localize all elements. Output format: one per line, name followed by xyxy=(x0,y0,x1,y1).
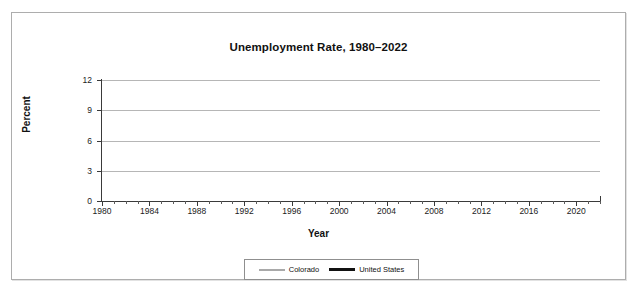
x-tick-label: 2020 xyxy=(559,206,593,216)
x-tick-minor xyxy=(209,201,210,204)
x-tick-minor xyxy=(410,201,411,204)
y-tick xyxy=(97,80,102,81)
x-tick-minor xyxy=(422,201,423,204)
x-tick-minor xyxy=(304,201,305,204)
x-tick-label: 1996 xyxy=(275,206,309,216)
y-tick-label: 3 xyxy=(66,166,92,176)
gridline xyxy=(102,80,600,81)
x-tick-minor xyxy=(541,201,542,204)
x-tick-minor xyxy=(232,201,233,204)
x-tick-label: 2008 xyxy=(417,206,451,216)
gridline xyxy=(102,171,600,172)
legend-label-colorado: Colorado xyxy=(289,265,319,274)
x-tick-label: 1980 xyxy=(85,206,119,216)
x-tick-minor xyxy=(600,201,601,204)
legend-swatch-colorado xyxy=(259,269,285,271)
x-tick-minor xyxy=(505,201,506,204)
x-tick-minor xyxy=(398,201,399,204)
x-tick-label: 1992 xyxy=(227,206,261,216)
y-tick xyxy=(97,141,102,142)
x-tick-minor xyxy=(517,201,518,204)
x-tick-label: 2012 xyxy=(464,206,498,216)
chart-frame: Unemployment Rate, 1980–2022 Percent 036… xyxy=(11,12,626,280)
x-tick-minor xyxy=(315,201,316,204)
x-tick-minor xyxy=(327,201,328,204)
x-tick-label: 2000 xyxy=(322,206,356,216)
y-tick xyxy=(97,110,102,111)
x-tick-minor xyxy=(221,201,222,204)
y-tick-label: 12 xyxy=(66,75,92,85)
x-tick-minor xyxy=(375,201,376,204)
y-tick-label: 0 xyxy=(66,196,92,206)
x-tick-minor xyxy=(173,201,174,204)
y-tick xyxy=(97,171,102,172)
chart-legend: Colorado United States xyxy=(244,259,419,280)
x-tick-minor xyxy=(446,201,447,204)
x-axis-title: Year xyxy=(12,228,625,239)
legend-label-united-states: United States xyxy=(359,265,404,274)
x-tick-minor xyxy=(114,201,115,204)
x-tick-label: 2016 xyxy=(512,206,546,216)
x-tick-minor xyxy=(470,201,471,204)
x-tick-label: 1988 xyxy=(180,206,214,216)
x-tick-minor xyxy=(458,201,459,204)
x-tick-minor xyxy=(268,201,269,204)
x-tick-minor xyxy=(564,201,565,204)
x-tick-minor xyxy=(588,201,589,204)
x-tick-label: 2004 xyxy=(370,206,404,216)
gridline xyxy=(102,141,600,142)
x-tick-minor xyxy=(256,201,257,204)
legend-item-united-states: United States xyxy=(329,265,404,274)
x-tick-minor xyxy=(553,201,554,204)
y-axis-title: Percent xyxy=(21,96,32,133)
x-tick-label: 1984 xyxy=(132,206,166,216)
x-tick-minor xyxy=(185,201,186,204)
x-tick-minor xyxy=(363,201,364,204)
x-tick-minor xyxy=(280,201,281,204)
x-tick-minor xyxy=(126,201,127,204)
x-tick-minor xyxy=(493,201,494,204)
plot-area xyxy=(102,80,600,201)
legend-swatch-united-states xyxy=(329,268,355,271)
chart-page: Unemployment Rate, 1980–2022 Percent 036… xyxy=(0,0,637,293)
x-tick-minor xyxy=(161,201,162,204)
chart-title: Unemployment Rate, 1980–2022 xyxy=(12,41,625,53)
y-tick-label: 9 xyxy=(66,105,92,115)
gridline xyxy=(102,110,600,111)
x-tick-minor xyxy=(138,201,139,204)
legend-item-colorado: Colorado xyxy=(259,265,319,274)
x-tick-minor xyxy=(351,201,352,204)
y-tick-label: 6 xyxy=(66,136,92,146)
